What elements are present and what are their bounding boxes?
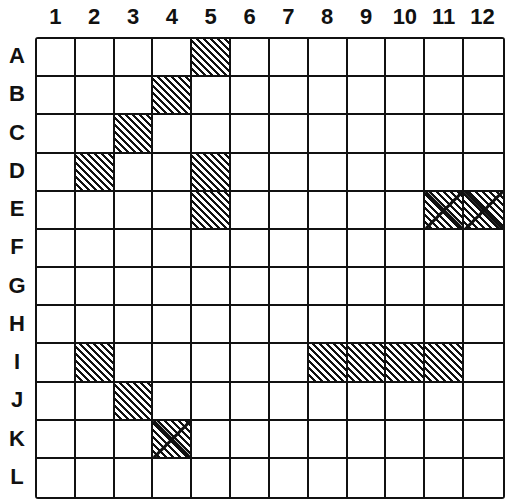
grid-cell-L4[interactable] — [153, 459, 192, 497]
grid-cell-I8-ship[interactable] — [309, 344, 348, 382]
grid-cell-L11[interactable] — [425, 459, 464, 497]
grid-cell-A1[interactable] — [37, 39, 76, 77]
grid-cell-H9[interactable] — [348, 306, 387, 344]
grid-cell-G12[interactable] — [464, 268, 503, 306]
grid-cell-J9[interactable] — [348, 383, 387, 421]
grid-cell-F2[interactable] — [76, 230, 115, 268]
grid-cell-K1[interactable] — [37, 421, 76, 459]
grid-cell-H12[interactable] — [464, 306, 503, 344]
grid-cell-K11[interactable] — [425, 421, 464, 459]
grid-cell-D4[interactable] — [153, 154, 192, 192]
grid-cell-A9[interactable] — [348, 39, 387, 77]
grid-cell-K6[interactable] — [231, 421, 270, 459]
grid-cell-A10[interactable] — [386, 39, 425, 77]
grid-cell-E5-ship[interactable] — [192, 192, 231, 230]
grid-cell-H8[interactable] — [309, 306, 348, 344]
grid-cell-E12-hit[interactable] — [464, 192, 503, 230]
grid-cell-A2[interactable] — [76, 39, 115, 77]
grid-cell-D6[interactable] — [231, 154, 270, 192]
grid-cell-D12[interactable] — [464, 154, 503, 192]
grid-cell-H4[interactable] — [153, 306, 192, 344]
grid-cell-G5[interactable] — [192, 268, 231, 306]
grid-cell-F11[interactable] — [425, 230, 464, 268]
grid-cell-C6[interactable] — [231, 115, 270, 153]
grid-cell-G10[interactable] — [386, 268, 425, 306]
grid-cell-H1[interactable] — [37, 306, 76, 344]
grid-cell-B3[interactable] — [115, 77, 154, 115]
grid-cell-L9[interactable] — [348, 459, 387, 497]
grid-cell-D1[interactable] — [37, 154, 76, 192]
grid-cell-E3[interactable] — [115, 192, 154, 230]
grid-cell-J10[interactable] — [386, 383, 425, 421]
grid-cell-C1[interactable] — [37, 115, 76, 153]
grid-cell-I2-ship[interactable] — [76, 344, 115, 382]
grid-cell-J7[interactable] — [270, 383, 309, 421]
grid-cell-K5[interactable] — [192, 421, 231, 459]
grid-cell-D10[interactable] — [386, 154, 425, 192]
grid-cell-A8[interactable] — [309, 39, 348, 77]
grid-cell-I11-ship[interactable] — [425, 344, 464, 382]
grid-cell-D7[interactable] — [270, 154, 309, 192]
grid-cell-A6[interactable] — [231, 39, 270, 77]
grid-cell-H10[interactable] — [386, 306, 425, 344]
grid-cell-D5-ship[interactable] — [192, 154, 231, 192]
grid-cell-E7[interactable] — [270, 192, 309, 230]
grid-cell-A3[interactable] — [115, 39, 154, 77]
grid-cell-D3[interactable] — [115, 154, 154, 192]
grid-cell-F12[interactable] — [464, 230, 503, 268]
grid-cell-C12[interactable] — [464, 115, 503, 153]
grid-cell-K3[interactable] — [115, 421, 154, 459]
grid-cell-L2[interactable] — [76, 459, 115, 497]
grid-cell-G2[interactable] — [76, 268, 115, 306]
grid-cell-L5[interactable] — [192, 459, 231, 497]
grid-cell-G8[interactable] — [309, 268, 348, 306]
grid-cell-J1[interactable] — [37, 383, 76, 421]
grid-cell-I5[interactable] — [192, 344, 231, 382]
grid-cell-E9[interactable] — [348, 192, 387, 230]
grid-cell-E1[interactable] — [37, 192, 76, 230]
grid-cell-L8[interactable] — [309, 459, 348, 497]
grid-cell-I6[interactable] — [231, 344, 270, 382]
grid-cell-A7[interactable] — [270, 39, 309, 77]
grid-cell-J8[interactable] — [309, 383, 348, 421]
grid-cell-E2[interactable] — [76, 192, 115, 230]
grid-cell-D9[interactable] — [348, 154, 387, 192]
grid-cell-F10[interactable] — [386, 230, 425, 268]
grid-cell-H11[interactable] — [425, 306, 464, 344]
grid-cell-A12[interactable] — [464, 39, 503, 77]
grid-cell-E11-hit[interactable] — [425, 192, 464, 230]
grid-cell-F1[interactable] — [37, 230, 76, 268]
grid-cell-C5[interactable] — [192, 115, 231, 153]
grid-cell-H5[interactable] — [192, 306, 231, 344]
grid-cell-L12[interactable] — [464, 459, 503, 497]
grid-cell-B10[interactable] — [386, 77, 425, 115]
grid-cell-F6[interactable] — [231, 230, 270, 268]
grid-cell-F8[interactable] — [309, 230, 348, 268]
grid-cell-F4[interactable] — [153, 230, 192, 268]
grid-cell-L10[interactable] — [386, 459, 425, 497]
grid-cell-G4[interactable] — [153, 268, 192, 306]
grid-cell-H6[interactable] — [231, 306, 270, 344]
grid-cell-G7[interactable] — [270, 268, 309, 306]
grid-cell-K12[interactable] — [464, 421, 503, 459]
grid-cell-B4-ship[interactable] — [153, 77, 192, 115]
grid-cell-F5[interactable] — [192, 230, 231, 268]
grid-cell-K4-hit[interactable] — [153, 421, 192, 459]
grid-cell-E4[interactable] — [153, 192, 192, 230]
grid-cell-J4[interactable] — [153, 383, 192, 421]
grid-cell-K7[interactable] — [270, 421, 309, 459]
grid-cell-I12[interactable] — [464, 344, 503, 382]
grid-cell-G9[interactable] — [348, 268, 387, 306]
grid-cell-E10[interactable] — [386, 192, 425, 230]
grid-cell-B6[interactable] — [231, 77, 270, 115]
grid-cell-F9[interactable] — [348, 230, 387, 268]
grid-cell-K9[interactable] — [348, 421, 387, 459]
grid-cell-I9-ship[interactable] — [348, 344, 387, 382]
grid-cell-I7[interactable] — [270, 344, 309, 382]
grid-cell-G6[interactable] — [231, 268, 270, 306]
grid-cell-B2[interactable] — [76, 77, 115, 115]
grid-cell-B1[interactable] — [37, 77, 76, 115]
grid-cell-B9[interactable] — [348, 77, 387, 115]
grid-cell-C11[interactable] — [425, 115, 464, 153]
grid-cell-B8[interactable] — [309, 77, 348, 115]
